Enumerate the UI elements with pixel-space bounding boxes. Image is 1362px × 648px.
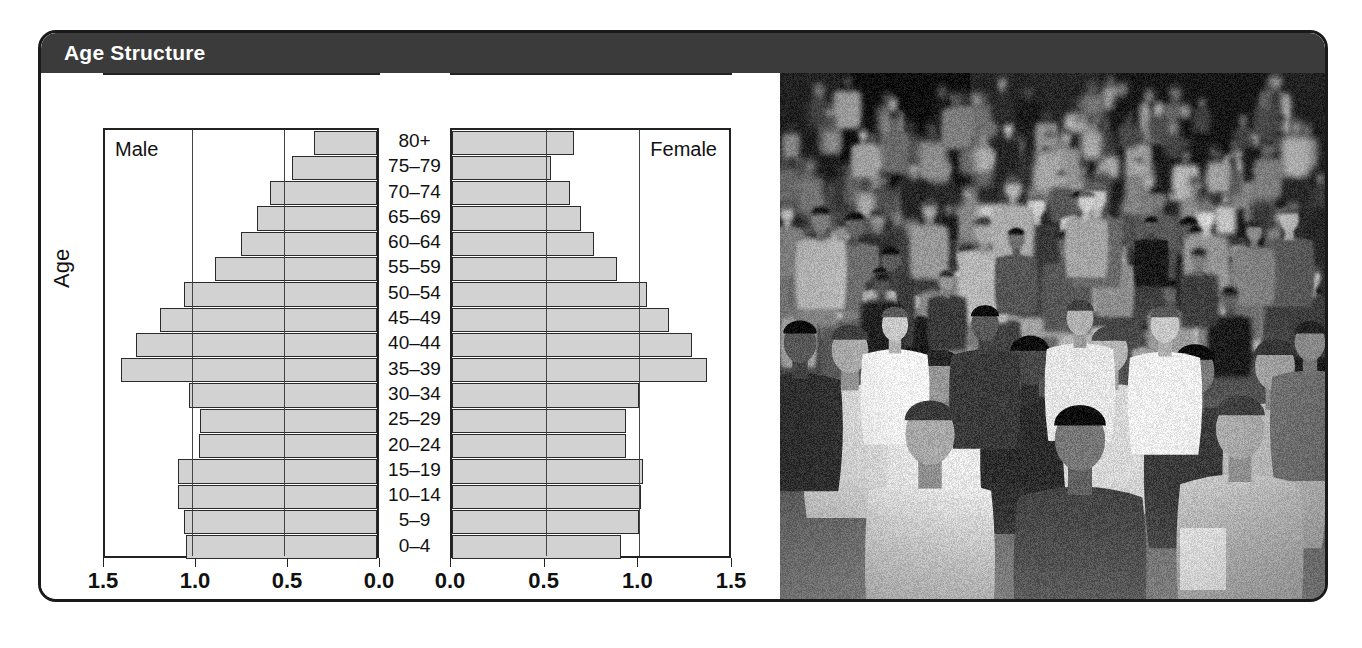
female-bars-group <box>452 130 729 556</box>
gridline <box>284 130 285 556</box>
gridline <box>192 130 193 556</box>
age-group-label: 80+ <box>379 128 450 153</box>
axis-tick <box>379 558 380 567</box>
age-group-label: 40–44 <box>379 330 450 355</box>
male-x-axis: 1.51.00.50.0 <box>103 558 379 598</box>
male-bar <box>184 510 377 534</box>
age-group-label: 5–9 <box>379 507 450 532</box>
age-group-label: 45–49 <box>379 305 450 330</box>
axis-tick-label: 1.0 <box>622 568 653 594</box>
female-bar <box>452 282 647 306</box>
female-bar-row <box>452 535 729 560</box>
female-bar-row <box>452 509 729 534</box>
axis-tick-label: 0.5 <box>272 568 303 594</box>
male-bar-row <box>105 307 377 332</box>
male-bar <box>270 181 377 205</box>
age-group-label: 70–74 <box>379 179 450 204</box>
male-bar <box>199 434 377 458</box>
male-bar-row <box>105 509 377 534</box>
female-bar <box>452 181 570 205</box>
female-bar-row <box>452 181 729 206</box>
age-group-label: 35–39 <box>379 356 450 381</box>
female-half-panel: Female <box>450 128 731 558</box>
female-bar <box>452 409 626 433</box>
male-bar <box>184 282 377 306</box>
female-bar-row <box>452 459 729 484</box>
female-bar <box>452 333 692 357</box>
male-bar-row <box>105 459 377 484</box>
age-group-label: 75–79 <box>379 153 450 178</box>
male-bar-row <box>105 206 377 231</box>
axis-tick-label: 1.5 <box>88 568 119 594</box>
age-group-label: 20–24 <box>379 432 450 457</box>
female-bar <box>452 206 581 230</box>
female-bar-row <box>452 282 729 307</box>
female-bar-row <box>452 130 729 155</box>
male-bar-row <box>105 231 377 256</box>
age-group-label: 60–64 <box>379 229 450 254</box>
axis-tick-label: 1.0 <box>180 568 211 594</box>
female-bar-row <box>452 408 729 433</box>
age-group-label: 0–4 <box>379 533 450 558</box>
axis-tick-label: 1.5 <box>716 568 747 594</box>
age-group-label: 25–29 <box>379 406 450 431</box>
female-bar <box>452 535 621 559</box>
female-bar <box>452 358 707 382</box>
female-bar-row <box>452 358 729 383</box>
male-bar <box>178 485 377 509</box>
male-bar-row <box>105 434 377 459</box>
page-title: Age Structure <box>64 41 205 65</box>
female-bar <box>452 156 551 180</box>
female-bar-row <box>452 484 729 509</box>
female-bar-row <box>452 231 729 256</box>
female-bar <box>452 434 626 458</box>
axis-tick-label: 0.0 <box>435 568 466 594</box>
female-bar-row <box>452 307 729 332</box>
female-x-axis: 0.00.51.01.5 <box>450 558 731 598</box>
male-bar <box>136 333 377 357</box>
male-half-panel: Male <box>103 128 379 558</box>
female-bar <box>452 257 617 281</box>
age-group-label: 50–54 <box>379 280 450 305</box>
female-bar <box>452 131 574 155</box>
male-bar-row <box>105 408 377 433</box>
y-axis-title: Age <box>49 249 75 288</box>
axis-tick <box>287 558 288 567</box>
male-bar <box>215 257 377 281</box>
male-bar-row <box>105 484 377 509</box>
female-bar-row <box>452 332 729 357</box>
male-bar-row <box>105 130 377 155</box>
axis-tick-label: 0.0 <box>364 568 395 594</box>
male-bar <box>200 409 377 433</box>
age-group-label: 15–19 <box>379 457 450 482</box>
axis-tick-label: 0.5 <box>528 568 559 594</box>
axis-tick <box>450 558 451 567</box>
age-group-label: 65–69 <box>379 204 450 229</box>
female-bar-row <box>452 256 729 281</box>
male-bar-row <box>105 181 377 206</box>
plot-area: Male 80+75–7970–7465–6960–6455–5950–5445… <box>103 128 731 558</box>
axis-tick <box>637 558 638 567</box>
male-bar-row <box>105 535 377 560</box>
male-bars-group <box>105 130 377 556</box>
age-group-label: 10–14 <box>379 482 450 507</box>
gridline <box>546 130 547 556</box>
male-bar <box>186 535 377 559</box>
male-bar-row <box>105 155 377 180</box>
crowd-photograph <box>780 73 1325 602</box>
age-group-label: 30–34 <box>379 381 450 406</box>
male-bar-row <box>105 256 377 281</box>
crowd-photo-canvas <box>780 73 1325 602</box>
figure-card: Age Structure Age Male 80+75–7970–7465–6… <box>38 30 1328 602</box>
male-bar <box>292 156 377 180</box>
female-bar <box>452 232 594 256</box>
axis-tick <box>731 558 732 567</box>
male-bar-row <box>105 358 377 383</box>
female-bar <box>452 459 643 483</box>
male-bar <box>178 459 377 483</box>
age-group-label: 55–59 <box>379 254 450 279</box>
male-bar <box>241 232 377 256</box>
male-bar <box>121 358 377 382</box>
male-bar <box>257 206 377 230</box>
male-bar <box>314 131 377 155</box>
